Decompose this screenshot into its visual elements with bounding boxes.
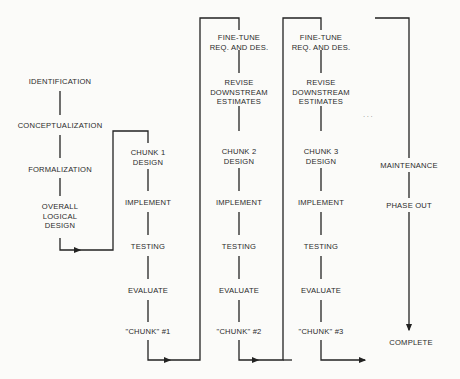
chunk1-testing: TESTING bbox=[131, 242, 165, 252]
chunk2-evaluate: EVALUATE bbox=[219, 286, 259, 296]
step-maintenance: MAINTENANCE bbox=[380, 161, 437, 171]
continuation-ellipsis: . . . bbox=[363, 111, 372, 121]
chunk3-result: "CHUNK" #3 bbox=[299, 327, 344, 337]
chunk2-revise-line2: DOWNSTREAM bbox=[210, 88, 268, 98]
chunk1-implement: IMPLEMENT bbox=[125, 198, 171, 208]
step-formalization: FORMALIZATION bbox=[28, 165, 92, 175]
chunk2-finetune-line2: REQ. AND DES. bbox=[210, 43, 269, 53]
chunk1-design-line2: DESIGN bbox=[131, 158, 166, 168]
chunk3-finetune-line2: REQ. AND DES. bbox=[292, 43, 351, 53]
chunk1-design: CHUNK 1 DESIGN bbox=[131, 148, 166, 167]
step-overall-line2: LOGICAL bbox=[42, 212, 78, 222]
step-identification: IDENTIFICATION bbox=[29, 77, 92, 87]
chunk3-testing: TESTING bbox=[304, 242, 338, 252]
chunk2-revise-line3: ESTIMATES bbox=[210, 97, 268, 107]
chunk3-finetune: FINE-TUNE REQ. AND DES. bbox=[292, 33, 351, 52]
chunk1-evaluate: EVALUATE bbox=[128, 286, 168, 296]
chunk3-evaluate: EVALUATE bbox=[301, 286, 341, 296]
chunk2-design: CHUNK 2 DESIGN bbox=[222, 147, 257, 166]
step-overall-logical-design: OVERALL LOGICAL DESIGN bbox=[42, 202, 78, 231]
chunk3-implement: IMPLEMENT bbox=[298, 198, 344, 208]
chunk1-design-line1: CHUNK 1 bbox=[131, 148, 166, 158]
step-conceptualization: CONCEPTUALIZATION bbox=[18, 121, 103, 131]
chunk3-revise-line2: DOWNSTREAM bbox=[292, 88, 350, 98]
chunk2-revise-estimates: REVISE DOWNSTREAM ESTIMATES bbox=[210, 78, 268, 107]
chunk2-design-line2: DESIGN bbox=[222, 157, 257, 167]
chunk3-revise-line3: ESTIMATES bbox=[292, 97, 350, 107]
chunk2-revise-line1: REVISE bbox=[210, 78, 268, 88]
chunk3-finetune-line1: FINE-TUNE bbox=[292, 33, 351, 43]
chunk2-testing: TESTING bbox=[222, 242, 256, 252]
chunk1-result: "CHUNK" #1 bbox=[126, 327, 171, 337]
chunk3-design-line1: CHUNK 3 bbox=[304, 147, 339, 157]
chunk2-finetune: FINE-TUNE REQ. AND DES. bbox=[210, 33, 269, 52]
chunk3-revise-estimates: REVISE DOWNSTREAM ESTIMATES bbox=[292, 78, 350, 107]
chunk2-result: "CHUNK" #2 bbox=[217, 327, 262, 337]
step-phase-out: PHASE OUT bbox=[386, 201, 432, 211]
chunk3-design-line2: DESIGN bbox=[304, 157, 339, 167]
chunk2-implement: IMPLEMENT bbox=[216, 198, 262, 208]
chunk2-design-line1: CHUNK 2 bbox=[222, 147, 257, 157]
chunk2-finetune-line1: FINE-TUNE bbox=[210, 33, 269, 43]
chunk3-design: CHUNK 3 DESIGN bbox=[304, 147, 339, 166]
step-complete: COMPLETE bbox=[389, 338, 432, 348]
step-overall-line3: DESIGN bbox=[42, 221, 78, 231]
step-overall-line1: OVERALL bbox=[42, 202, 78, 212]
chunk3-revise-line1: REVISE bbox=[292, 78, 350, 88]
flow-connectors bbox=[0, 0, 460, 379]
